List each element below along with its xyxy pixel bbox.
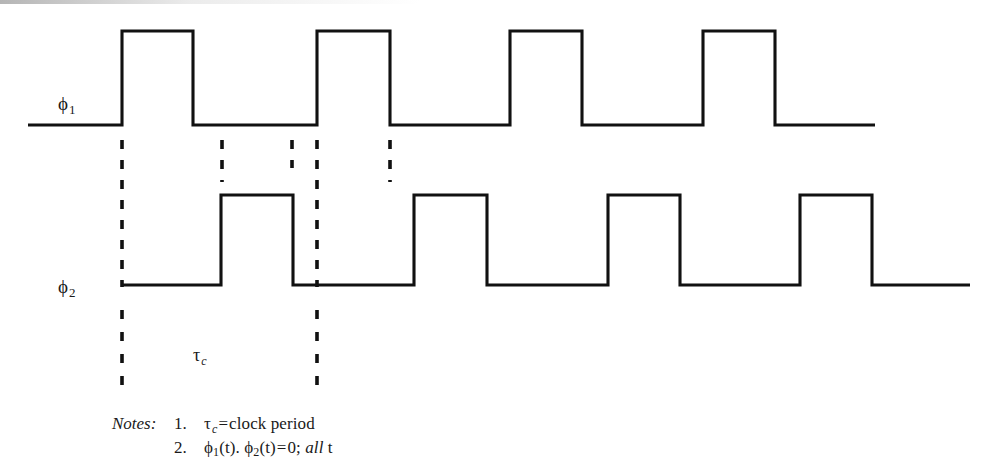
note-1-definition: clock period (229, 414, 315, 433)
note-1-operator: = (217, 414, 229, 433)
note-2-qualifier: all (305, 438, 323, 457)
waveform-phi1 (28, 31, 875, 125)
signal-label-phi1-subscript: 1 (68, 102, 76, 117)
note-2-value: 0; (287, 438, 300, 457)
notes-row-1: Notes: 1. τc=clock period (112, 414, 333, 438)
notes-block: Notes: 1. τc=clock period 2. ϕ1(t). ϕ2(t… (112, 414, 333, 462)
note-2-operator: = (276, 438, 288, 457)
clock-period-subscript: c (200, 354, 206, 368)
note-2-variable: t (328, 438, 333, 457)
note-1-tau: τ (204, 414, 211, 433)
note-2-phi2-arg: (t) (259, 438, 275, 457)
signal-label-phi1-base: ϕ (58, 93, 68, 114)
waveform-canvas (0, 0, 1005, 476)
notes-caption: Notes: (112, 414, 174, 434)
note-1-text: τc=clock period (204, 414, 315, 437)
note-2-text: ϕ1(t). ϕ2(t)=0; all t (204, 438, 333, 460)
notes-row-2: 2. ϕ1(t). ϕ2(t)=0; all t (112, 438, 333, 462)
timing-diagram-figure: ϕ1 ϕ2 τc Notes: 1. τc=clock period 2. ϕ1… (0, 0, 1005, 476)
signal-label-phi2-base: ϕ (58, 276, 68, 297)
note-1-number: 1. (174, 414, 204, 434)
signal-label-phi2-subscript: 2 (68, 285, 76, 300)
clock-period-label: τc (193, 346, 207, 367)
note-2-number: 2. (174, 438, 204, 458)
note-2-phi1: ϕ (204, 438, 213, 457)
signal-label-phi2: ϕ2 (58, 277, 76, 299)
note-2-phi2: ϕ (244, 438, 253, 457)
note-2-phi1-arg: (t). (219, 438, 240, 457)
guide-lines-group (122, 140, 390, 386)
waveform-phi2 (122, 195, 970, 285)
signal-label-phi1: ϕ1 (58, 94, 76, 116)
waveforms-group (28, 31, 970, 285)
